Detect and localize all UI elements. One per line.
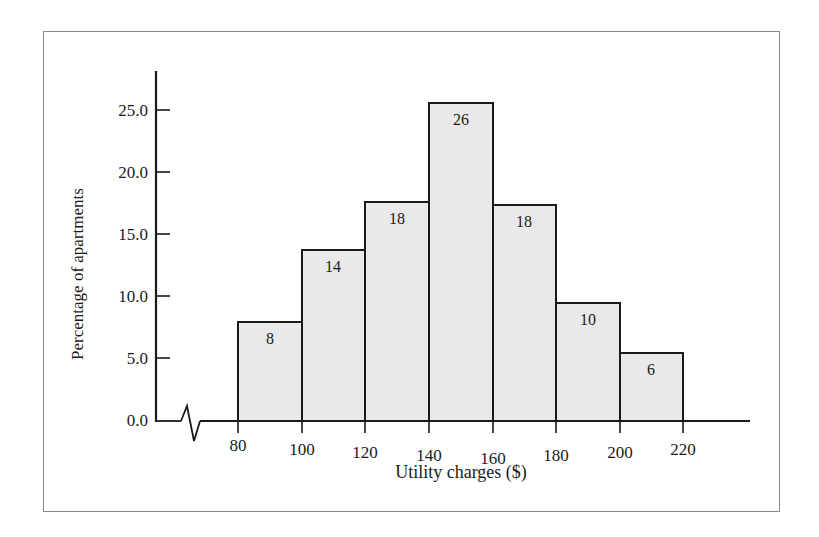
x-axis-ticks	[238, 421, 683, 433]
x-tick-label-80: 80	[208, 437, 268, 454]
bar-100-120	[302, 250, 365, 421]
bar-label-80-100: 8	[240, 331, 300, 347]
y-tick-label-0: 0.0	[88, 412, 148, 429]
y-tick-label-10: 10.0	[88, 288, 148, 305]
bar-label-200-220: 6	[621, 362, 681, 378]
bar-label-180-200: 10	[558, 312, 618, 328]
histogram-chart: 25.0 20.0 15.0 10.0 5.0 0.0 80 100 120 1…	[0, 0, 819, 537]
x-axis-title: Utility charges ($)	[238, 462, 684, 483]
y-axis-title: Percentage of apartments	[68, 154, 88, 394]
bar-120-140	[365, 202, 429, 421]
bar-label-160-180: 18	[494, 214, 554, 230]
x-tick-label-100: 100	[272, 441, 332, 458]
y-tick-label-25: 25.0	[88, 102, 148, 119]
bar-label-100-120: 14	[303, 259, 363, 275]
y-tick-label-20: 20.0	[88, 164, 148, 181]
axis-break-icon	[181, 406, 200, 441]
bar-label-140-160: 26	[431, 112, 491, 128]
y-axis-ticks	[156, 110, 170, 358]
bar-140-160	[429, 103, 493, 421]
y-tick-label-15: 15.0	[88, 226, 148, 243]
x-tick-label-200: 200	[590, 444, 650, 461]
bar-160-180	[493, 205, 556, 421]
y-tick-label-5: 5.0	[88, 350, 148, 367]
bar-label-120-140: 18	[367, 211, 427, 227]
x-tick-label-120: 120	[335, 444, 395, 461]
x-tick-label-220: 220	[653, 441, 713, 458]
